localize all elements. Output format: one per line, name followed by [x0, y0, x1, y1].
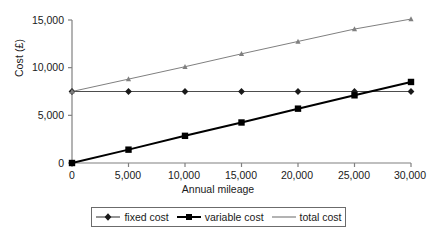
data-point-3 — [238, 88, 245, 95]
data-point-6 — [408, 16, 413, 21]
legend-label-fixed-cost: fixed cost — [124, 212, 168, 223]
x-tick-marks — [72, 163, 411, 167]
series-total-cost — [69, 16, 413, 93]
data-series-layer — [69, 16, 415, 166]
data-point-2 — [182, 133, 188, 139]
data-point-2 — [182, 88, 189, 95]
data-point-0 — [69, 160, 75, 166]
data-point-5 — [351, 92, 357, 98]
data-point-6 — [408, 79, 414, 85]
chart-legend: fixed cost variable cost total cost — [91, 207, 346, 227]
cost-vs-mileage-chart: Cost (£) Annual mileage 15,000 10,000 5,… — [0, 0, 436, 240]
legend-item-variable-cost: variable cost — [176, 211, 264, 223]
data-point-3 — [238, 119, 244, 125]
data-point-6 — [408, 88, 415, 95]
data-point-4 — [295, 88, 302, 95]
legend-item-fixed-cost: fixed cost — [95, 211, 168, 223]
data-point-4 — [295, 105, 301, 111]
variable-cost-key-icon — [176, 211, 202, 223]
total-cost-key-icon — [271, 211, 297, 223]
legend-label-total-cost: total cost — [300, 212, 342, 223]
fixed-cost-key-icon — [95, 211, 121, 223]
data-point-1 — [125, 146, 131, 152]
plot-area — [0, 0, 436, 240]
data-point-1 — [125, 88, 132, 95]
legend-item-total-cost: total cost — [271, 211, 342, 223]
legend-label-variable-cost: variable cost — [205, 212, 264, 223]
